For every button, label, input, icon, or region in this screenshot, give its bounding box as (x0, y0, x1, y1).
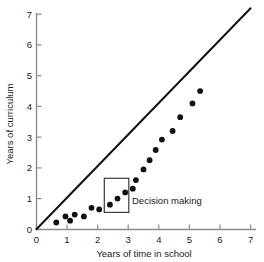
data-point (177, 114, 183, 120)
y-tick-label-5: 5 (27, 70, 32, 81)
decision-making-label: Decision making (132, 195, 202, 206)
x-tick-label-2: 2 (95, 234, 100, 245)
y-tick-label-4: 4 (27, 101, 32, 112)
data-point (197, 88, 203, 94)
x-tick-label-0: 0 (34, 234, 39, 245)
y-tick-label-1: 1 (27, 193, 32, 204)
data-point (89, 205, 95, 211)
y-tick-label-7: 7 (27, 9, 32, 20)
data-point (81, 214, 87, 220)
data-point (53, 220, 59, 226)
data-point (130, 186, 136, 192)
data-point (147, 157, 153, 163)
data-point (170, 128, 176, 134)
data-point (63, 214, 69, 220)
y-tick-label-2: 2 (27, 162, 32, 173)
data-point (96, 207, 102, 213)
x-tick-label-7: 7 (248, 234, 253, 245)
data-point (72, 212, 78, 218)
x-tick-label-6: 6 (217, 234, 222, 245)
data-point (122, 190, 128, 196)
x-tick-label-3: 3 (126, 234, 131, 245)
y-tick-label-6: 6 (27, 39, 32, 50)
y-tick-label-3: 3 (27, 132, 32, 143)
x-tick-label-5: 5 (187, 234, 192, 245)
data-point (115, 196, 121, 202)
data-point (141, 167, 147, 173)
data-point (107, 202, 113, 208)
x-tick-label-4: 4 (156, 234, 161, 245)
scatter-plot-svg: 0 1 2 3 4 5 6 7 0 1 2 3 4 5 6 7 Years of… (0, 0, 264, 262)
data-point (153, 147, 159, 153)
data-point (133, 177, 139, 183)
x-tick-label-1: 1 (64, 234, 69, 245)
data-point (67, 218, 73, 224)
x-axis-title: Years of time in school (96, 248, 191, 259)
y-tick-label-0: 0 (27, 224, 32, 235)
data-point (190, 101, 196, 107)
chart-figure: 0 1 2 3 4 5 6 7 0 1 2 3 4 5 6 7 Years of… (0, 0, 264, 262)
y-axis-title: Years of curriculum (4, 83, 15, 164)
data-point (159, 137, 165, 143)
